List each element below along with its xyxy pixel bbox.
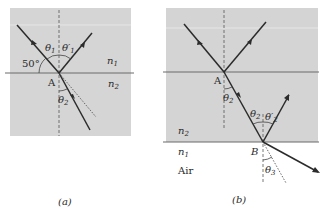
panel-b-label-air: Air: [177, 165, 193, 176]
panel-a: θ1 θ′1 50° A θ2 n1 n2 (a): [5, 8, 134, 207]
panel-b-refracted-ray-b: [263, 142, 318, 172]
panel-b-caption: (b): [232, 194, 246, 205]
panel-a-label-50-degrees: 50°: [22, 58, 40, 69]
panel-b-label-n1: n1: [178, 146, 189, 159]
arrow-icon: [312, 167, 320, 173]
panel-b-angle-arc-theta3: [263, 157, 272, 160]
panel-a-caption: (a): [58, 196, 72, 207]
panel-b: A θ2 θ2 θ′2 B n2 n1 Air θ3 (b): [163, 8, 320, 205]
panel-b-label-point-a: A: [213, 75, 222, 86]
panel-b-label-theta3: θ3: [265, 164, 276, 177]
panel-b-label-point-b: B: [250, 146, 258, 157]
panel-a-medium-background: [10, 8, 131, 136]
refraction-diagram: θ1 θ′1 50° A θ2 n1 n2 (a): [0, 0, 328, 212]
panel-a-label-point-a: A: [47, 77, 56, 88]
